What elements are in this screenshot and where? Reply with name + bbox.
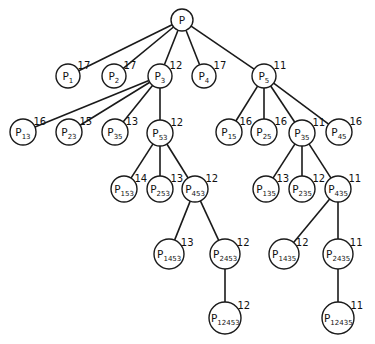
node-value: 12 xyxy=(296,237,309,248)
tree-node-p253: P25313 xyxy=(147,173,183,202)
node-value: 12 xyxy=(238,300,251,311)
node-value: 11 xyxy=(348,173,361,184)
node-label-subscript: 35 xyxy=(301,134,310,142)
node-value: 16 xyxy=(274,116,287,127)
tree-node-p2435: P243511 xyxy=(323,237,363,269)
tree-node-p: P xyxy=(171,9,193,31)
edge-p-p4 xyxy=(186,30,200,65)
node-value: 13 xyxy=(125,116,138,127)
node-value: 16 xyxy=(33,116,46,127)
node-value: 11 xyxy=(351,300,364,311)
node-label-subscript: 2 xyxy=(115,77,119,85)
tree-node-p2: P217 xyxy=(102,60,136,88)
tree-node-p235: P23512 xyxy=(289,173,325,202)
node-label-subscript: 2435 xyxy=(332,255,350,263)
node-label-subscript: 45 xyxy=(338,133,347,141)
tree-node-p135: P13513 xyxy=(253,173,289,202)
node-value: 13 xyxy=(170,173,183,184)
node-label-subscript: 53 xyxy=(159,134,168,142)
tree-node-p53: P5312 xyxy=(147,117,183,146)
node-value: 12 xyxy=(312,173,325,184)
edge-p453-p2453 xyxy=(200,201,218,241)
node-label-subscript: 2453 xyxy=(219,255,237,263)
node-label-subscript: 453 xyxy=(192,190,205,198)
node-value: 17 xyxy=(214,60,227,71)
node-value: 11 xyxy=(350,237,363,248)
node-label-subscript: 3 xyxy=(161,77,165,85)
tree-node-p23: P2315 xyxy=(56,116,92,145)
tree-node-p1435: P143512 xyxy=(269,237,309,269)
node-label-subscript: 25 xyxy=(263,133,272,141)
tree-node-p12435: P1243511 xyxy=(322,300,363,334)
node-label-subscript: 12435 xyxy=(330,319,352,327)
node-label-subscript: 135 xyxy=(263,190,276,198)
node-label-subscript: 1 xyxy=(69,77,73,85)
node-label: P xyxy=(179,14,185,26)
node-label-subscript: 35 xyxy=(114,133,123,141)
node-value: 13 xyxy=(181,237,194,248)
node-value: 12 xyxy=(170,60,183,71)
node-label-subscript: 435 xyxy=(335,190,348,198)
edge-p453-p1453 xyxy=(175,201,191,240)
node-label-subscript: 153 xyxy=(121,190,134,198)
tree-diagram: PP117P217P312P417P511P1316P2315P3513P531… xyxy=(0,0,375,344)
node-label-subscript: 4 xyxy=(205,77,210,85)
node-label-subscript: 1453 xyxy=(163,255,181,263)
tree-node-p15: P1516 xyxy=(216,116,252,145)
node-value: 14 xyxy=(134,173,147,184)
tree-node-p13: P1316 xyxy=(10,116,46,145)
tree-node-p45: P4516 xyxy=(326,116,362,145)
nodes-layer: PP117P217P312P417P511P1316P2315P3513P531… xyxy=(10,9,363,334)
node-label-subscript: 15 xyxy=(228,133,237,141)
node-value: 17 xyxy=(124,60,137,71)
node-value: 12 xyxy=(205,173,218,184)
tree-node-p35a: P3513 xyxy=(102,116,138,145)
tree-node-p5: P511 xyxy=(252,60,286,88)
node-value: 12 xyxy=(237,237,250,248)
node-value: 17 xyxy=(78,60,91,71)
tree-node-p1: P117 xyxy=(56,60,90,88)
tree-node-p153: P15314 xyxy=(111,173,147,202)
node-label-subscript: 235 xyxy=(299,190,312,198)
tree-node-p1453: P145313 xyxy=(154,237,194,269)
node-value: 15 xyxy=(79,116,92,127)
node-value: 11 xyxy=(274,60,287,71)
node-label-subscript: 253 xyxy=(157,190,170,198)
node-value: 16 xyxy=(239,116,252,127)
node-label-base: P xyxy=(179,14,185,26)
node-value: 12 xyxy=(170,117,183,128)
node-value: 11 xyxy=(312,117,325,128)
node-label-subscript: 13 xyxy=(22,133,31,141)
node-value: 16 xyxy=(349,116,362,127)
tree-node-p12453: P1245312 xyxy=(209,300,250,334)
node-label-subscript: 12453 xyxy=(217,319,239,327)
tree-node-p4: P417 xyxy=(192,60,226,88)
tree-node-p25: P2516 xyxy=(251,116,287,145)
node-label-subscript: 1435 xyxy=(278,255,296,263)
node-label-subscript: 23 xyxy=(68,133,77,141)
node-value: 13 xyxy=(276,173,289,184)
node-label-subscript: 5 xyxy=(265,77,269,85)
tree-node-p3: P312 xyxy=(148,60,182,88)
tree-node-p2453: P245312 xyxy=(210,237,250,269)
